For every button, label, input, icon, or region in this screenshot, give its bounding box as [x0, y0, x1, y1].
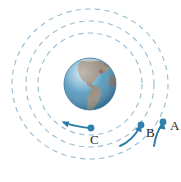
earth-globe	[64, 57, 116, 111]
satellite-b-group: B	[120, 122, 155, 146]
orbit-diagram-figure: A B C	[0, 0, 181, 182]
satellite-c-arrowhead	[62, 121, 70, 127]
satellite-c-label: C	[90, 132, 99, 147]
satellite-a-label: A	[170, 118, 180, 133]
orbit-diagram-canvas: A B C	[0, 0, 181, 182]
satellite-b-label: B	[146, 125, 155, 140]
satellite-a-group: A	[154, 118, 180, 146]
satellite-b-dot	[138, 122, 145, 129]
satellite-a-dot	[160, 119, 167, 126]
satellite-c-dot	[88, 125, 95, 132]
